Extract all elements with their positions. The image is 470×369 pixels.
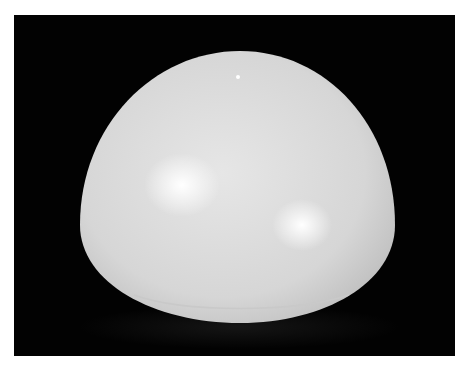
highlight-left: [144, 153, 220, 217]
highlight-right: [272, 199, 332, 251]
speck: [236, 75, 240, 79]
photo-frame: [0, 0, 470, 369]
photo: [14, 15, 455, 356]
dome-illustration: [14, 15, 455, 356]
dome-body: [80, 51, 395, 323]
